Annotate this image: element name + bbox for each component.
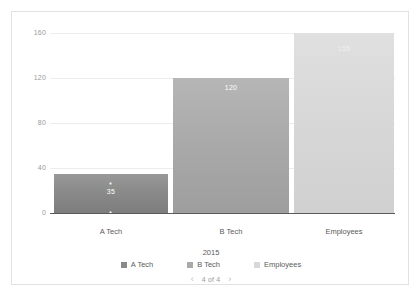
- legend-label: Employees: [264, 260, 301, 269]
- pagination-status: 4 of 4: [202, 276, 221, 283]
- y-tick-label-160: 160: [18, 29, 46, 36]
- bar-value-employees: 155: [294, 45, 394, 52]
- legend-item-a-tech[interactable]: A Tech: [121, 260, 153, 269]
- bar-b-tech[interactable]: [173, 78, 289, 213]
- y-tick-label-40: 40: [18, 164, 46, 171]
- plot-area: 160 120 80 40 0 35 120 155: [12, 12, 410, 224]
- legend-item-b-tech[interactable]: B Tech: [187, 260, 220, 269]
- legend-item-employees[interactable]: Employees: [254, 260, 301, 269]
- legend-swatch-icon: [187, 262, 193, 268]
- bar-value-a-tech: 35: [54, 188, 168, 195]
- y-tick-label-0: 0: [18, 209, 46, 216]
- pagination: ‹ 4 of 4 ›: [12, 274, 410, 284]
- legend-label: A Tech: [131, 260, 153, 269]
- chevron-left-icon[interactable]: ‹: [183, 274, 202, 284]
- x-axis-line: [50, 213, 395, 214]
- x-category-label-b-tech: B Tech: [173, 227, 289, 236]
- legend-label: B Tech: [197, 260, 220, 269]
- bar-value-b-tech: 120: [173, 84, 289, 91]
- data-point-marker-top[interactable]: [109, 182, 112, 185]
- legend-swatch-icon: [121, 262, 127, 268]
- chevron-right-icon[interactable]: ›: [220, 274, 239, 284]
- y-tick-label-120: 120: [18, 74, 46, 81]
- chart-card: 160 120 80 40 0 35 120 155 A Tech B Tech…: [11, 11, 409, 285]
- y-tick-label-80: 80: [18, 119, 46, 126]
- legend: A Tech B Tech Employees: [12, 260, 410, 269]
- bar-employees[interactable]: [294, 33, 394, 213]
- legend-swatch-icon: [254, 262, 260, 268]
- legend-title: 2015: [12, 248, 410, 257]
- x-category-label-employees: Employees: [294, 227, 394, 236]
- x-category-label-a-tech: A Tech: [54, 227, 168, 236]
